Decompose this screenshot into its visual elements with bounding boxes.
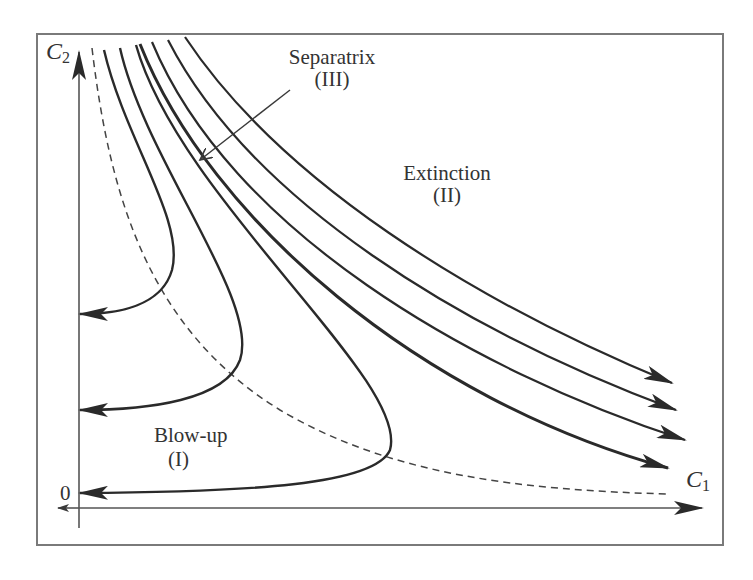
extinction-label-title: Extinction	[382, 162, 512, 184]
blowup-curve-2	[80, 48, 242, 410]
blowup-label-title: Blow-up	[154, 424, 228, 446]
origin-label: 0	[60, 482, 71, 504]
separatrix-label-number: (III)	[272, 68, 392, 90]
separatrix-label: Separatrix (III)	[272, 46, 392, 90]
extinction-trajectories	[140, 37, 685, 468]
separatrix-pointer	[200, 90, 290, 160]
extinction-label: Extinction (II)	[382, 162, 512, 206]
blowup-label-number: (I)	[168, 448, 189, 470]
x-axis-label: C1	[686, 468, 710, 497]
extinction-label-number: (II)	[382, 184, 512, 206]
separatrix-label-title: Separatrix	[272, 46, 392, 68]
axes	[58, 52, 702, 528]
extinction-curve-4	[185, 37, 672, 383]
y-axis-label: C2	[46, 40, 70, 69]
phase-diagram: C2 C1 0 Separatrix (III) Extinction (II)…	[0, 0, 753, 580]
extinction-curve-2	[152, 42, 685, 440]
